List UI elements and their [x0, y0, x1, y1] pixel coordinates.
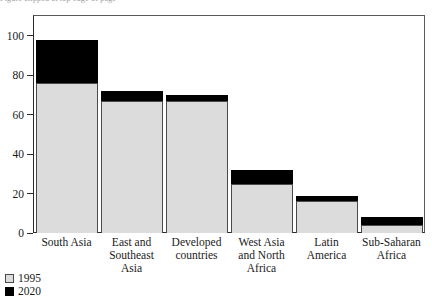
bar-slot	[34, 16, 99, 233]
y-axis-tick-label: 40	[13, 148, 25, 160]
legend-item[interactable]: 2020	[5, 285, 41, 298]
y-axis-tick: 60	[13, 109, 34, 121]
legend-label: 1995	[18, 272, 41, 285]
bar-segment-2020[interactable]	[231, 170, 293, 184]
stacked-bar[interactable]	[231, 170, 293, 233]
bar-segment-1995[interactable]	[101, 101, 163, 233]
bar-slot	[294, 16, 359, 233]
stacked-bar[interactable]	[361, 217, 423, 233]
x-axis-category-labels: South AsiaEast and Southeast AsiaDevelop…	[34, 236, 424, 270]
y-axis-tick-label: 100	[7, 30, 24, 42]
stacked-bar[interactable]	[296, 196, 358, 233]
y-axis-tick-label: 0	[18, 227, 24, 239]
bar-segment-1995[interactable]	[361, 225, 423, 233]
stacked-bar-chart: 020406080100 South AsiaEast and Southeas…	[0, 0, 432, 305]
stacked-bar[interactable]	[36, 40, 98, 233]
legend-swatch-1995	[5, 274, 14, 283]
y-axis-tick: 80	[13, 69, 34, 81]
y-axis-tick: 40	[13, 148, 34, 160]
bar-segment-2020[interactable]	[361, 217, 423, 225]
bar-segment-2020[interactable]	[36, 40, 98, 83]
stacked-bar[interactable]	[166, 95, 228, 233]
bar-slot	[229, 16, 294, 233]
y-axis-tick-label: 20	[13, 188, 25, 200]
x-axis-label: Latin America	[294, 236, 359, 270]
stacked-bar[interactable]	[101, 91, 163, 233]
y-axis-tick: 100	[7, 30, 33, 42]
y-axis: 020406080100	[0, 15, 33, 234]
bar-slot	[359, 16, 424, 233]
x-axis-label: Developed countries	[164, 236, 229, 270]
y-axis-tick: 20	[13, 188, 34, 200]
bar-segment-1995[interactable]	[231, 184, 293, 233]
legend-label: 2020	[18, 285, 41, 298]
bar-slot	[99, 16, 164, 233]
y-axis-tick-label: 80	[13, 69, 25, 81]
legend-item[interactable]: 1995	[5, 272, 41, 285]
x-axis-label: East and Southeast Asia	[99, 236, 164, 270]
x-axis-label: West Asia and North Africa	[229, 236, 294, 270]
bar-segment-2020[interactable]	[101, 91, 163, 101]
legend: 19952020	[5, 272, 41, 298]
bar-segment-1995[interactable]	[166, 101, 228, 233]
bar-segment-1995[interactable]	[296, 201, 358, 233]
bar-slot	[164, 16, 229, 233]
legend-swatch-2020	[5, 287, 14, 296]
y-axis-tick-label: 60	[13, 109, 25, 121]
x-axis-label: Sub-Saharan Africa	[359, 236, 424, 270]
y-axis-tick: 0	[18, 227, 33, 239]
x-axis-label: South Asia	[34, 236, 99, 270]
bar-series-group	[34, 16, 424, 233]
bar-segment-1995[interactable]	[36, 83, 98, 233]
